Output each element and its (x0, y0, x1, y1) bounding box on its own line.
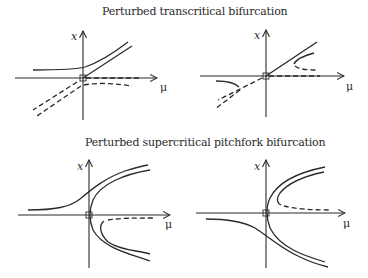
panel-pitchfork-right: x μ (196, 160, 350, 268)
stable-branch-diagonal (266, 42, 317, 76)
unstable-branch-diag-1 (33, 82, 77, 110)
mu-axis-label: μ (160, 81, 167, 94)
stable-branch-upper (33, 42, 128, 70)
panel-transcritical-right: x μ (200, 29, 353, 117)
x-axis-label: x (71, 30, 78, 43)
unstable-branch (284, 206, 330, 210)
mu-axis-label: μ (343, 217, 350, 230)
stable-branch-s-curve (28, 165, 148, 210)
stable-branch-lower-s-curve (206, 219, 328, 267)
stable-branch-inner-lower (101, 221, 150, 254)
unstable-branch-lower (84, 83, 132, 86)
stable-branch-lower-fold (216, 81, 239, 87)
mu-axis-label: μ (165, 218, 172, 231)
panel-transcritical-left: x μ (15, 30, 167, 120)
bifurcation-diagrams: x μ x μ x μ x (0, 0, 368, 278)
stable-branch-diagonal (83, 46, 132, 78)
x-axis-label: x (77, 160, 84, 173)
panel-pitchfork-left: x μ (18, 160, 172, 268)
stable-branch-inner-upper (277, 172, 324, 205)
unstable-branch-diag-2 (37, 86, 81, 116)
unstable-branch-upper-fold (295, 66, 318, 70)
x-axis-label: x (254, 160, 261, 173)
x-axis-label: x (254, 29, 261, 42)
unstable-branch (108, 218, 153, 220)
mu-axis-label: μ (346, 80, 353, 93)
